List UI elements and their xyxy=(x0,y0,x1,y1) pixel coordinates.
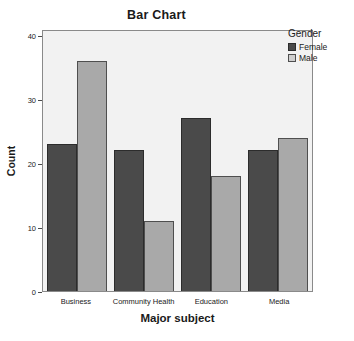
legend-item-male[interactable]: Male xyxy=(288,53,352,63)
plot-area xyxy=(42,30,313,292)
bar-group xyxy=(178,31,245,291)
x-axis-category-label: Media xyxy=(245,292,313,314)
bar-female[interactable] xyxy=(181,118,211,291)
y-axis: 010203040 xyxy=(0,30,42,292)
legend-item-female[interactable]: Female xyxy=(288,42,352,52)
bar-group xyxy=(43,31,110,291)
chart-title: Bar Chart xyxy=(0,8,313,22)
legend-item-label: Male xyxy=(299,53,317,63)
bar-male[interactable] xyxy=(278,138,308,291)
bar-chart: Bar Chart Count 010203040 BusinessCommun… xyxy=(0,0,354,341)
y-axis-tick-label: 30 xyxy=(28,95,38,104)
bar-female[interactable] xyxy=(248,150,278,291)
legend-item-label: Female xyxy=(299,42,327,52)
bar-male[interactable] xyxy=(77,61,107,291)
legend-title: Gender xyxy=(288,28,352,39)
bar-female[interactable] xyxy=(114,150,144,291)
x-axis: BusinessCommunity HealthEducationMedia xyxy=(42,292,313,314)
x-axis-title: Major subject xyxy=(42,312,313,324)
legend: Gender FemaleMale xyxy=(288,28,352,64)
bar-group xyxy=(245,31,312,291)
y-axis-tick-label: 40 xyxy=(28,31,38,40)
x-axis-category-label: Business xyxy=(42,292,110,314)
bar-male[interactable] xyxy=(211,176,241,291)
legend-swatch-icon xyxy=(288,43,296,51)
x-axis-category-label: Community Health xyxy=(110,292,178,314)
legend-items: FemaleMale xyxy=(288,42,352,63)
plot-inner xyxy=(43,31,312,291)
bar-groups xyxy=(43,31,312,291)
bar-female[interactable] xyxy=(47,144,77,291)
bar-male[interactable] xyxy=(144,221,174,291)
x-axis-category-label: Education xyxy=(178,292,246,314)
y-axis-tick-label: 0 xyxy=(32,287,38,296)
y-axis-tick-label: 20 xyxy=(28,159,38,168)
legend-swatch-icon xyxy=(288,54,296,62)
y-axis-tick-label: 10 xyxy=(28,223,38,232)
bar-group xyxy=(110,31,177,291)
